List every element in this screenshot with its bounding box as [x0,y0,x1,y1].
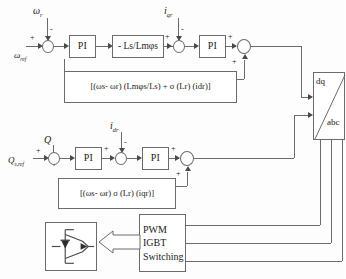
row2-pi-controller-1[interactable]: PI [75,147,102,170]
row2-current-feedback-label: idr [110,120,118,133]
row2-summer-current [115,152,127,165]
dq-abc-transform-block[interactable]: dq abc [313,72,345,140]
row1-ff-sign: + [232,58,237,66]
row1-output-line-h [251,46,301,47]
row2-output-line-v [294,115,295,158]
row1-pi-controller-2[interactable]: PI [199,35,226,58]
row2-pi2-out-sign: + [171,145,176,153]
row2-pi1-out-sign: + [104,145,109,153]
row1-output-line-v [301,46,302,97]
row1-ff-arrow-icon [242,54,248,59]
row1-current-feedback-line [178,18,179,38]
gate-signal-hollow-arrow-icon [97,230,141,260]
dq-out-line-b-h [186,243,331,244]
row1-ff-line-v [244,60,245,79]
row1-summer-current [173,40,185,53]
row2-output-line-h [194,158,294,159]
dq-out-line-a-v [320,140,321,225]
row2-current-feedback-sign: - [124,139,127,147]
row1-gain-block[interactable]: - Ls/Lmφs [112,35,164,58]
row2-pi-controller-2[interactable]: PI [142,147,169,170]
converter-block[interactable] [45,222,97,271]
row1-feedback-line [47,18,48,38]
row1-summer-speed [42,40,54,53]
abc-label: abc [327,118,340,127]
dq-out-line-c-v [342,140,343,261]
row1-ff-tap-line-v [64,59,65,71]
row2-reference-sign: + [36,147,41,155]
pwm-line-2: IGBT [143,236,166,249]
row1-reference-sign: + [30,34,35,42]
row1-feedback-sign: - [50,26,53,34]
row1-pi2-out-sign: + [228,33,233,41]
row1-reference-label: ωref [14,50,26,62]
row2-reference-label: Qs,ref [8,155,24,167]
row1-current-feedback-sign: - [181,26,184,34]
dq-out-line-b-v [331,140,332,243]
row2-ff-line-h [176,186,187,187]
row2-feedback-label: Q [44,134,51,145]
row1-gain-out-sign: + [165,33,170,41]
row2-ff-line-v [187,172,188,186]
dq-label: dq [316,77,325,86]
pwm-igbt-switching-block[interactable]: PWM IGBT Switching [139,214,186,272]
dq-out-line-a-h [186,225,320,226]
row1-pi-controller-1[interactable]: PI [69,35,96,58]
row1-feedback-label: ωr [33,5,42,18]
pwm-line-3: Switching [143,250,184,263]
row2-feedforward-block[interactable]: [(ωs- ωr) σ (Lr) (iqr)] [58,178,176,209]
row1-ff-line-h [237,79,244,80]
row2-summer-power [48,152,60,165]
igbt-with-antiparallel-diode-icon [46,222,96,271]
row1-summer-output [237,39,251,54]
row1-sum2-input-arrow-icon [167,43,172,49]
pwm-line-1: PWM [143,223,167,236]
row2-ff-sign: + [176,170,181,178]
row2-summer-output [180,151,194,166]
row1-feedforward-block[interactable]: [(ωs- ωr) (Lmφs/Ls) + σ (Lr) (idr)] [64,71,237,103]
dq-out-line-c-h [186,261,342,262]
row1-current-feedback-label: iqr [164,5,172,18]
row2-ff-arrow-icon [185,166,191,171]
